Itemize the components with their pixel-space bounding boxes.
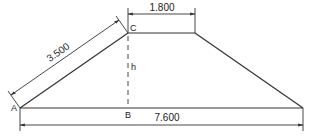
right-slant-line (195, 33, 303, 108)
point-label-c: C (130, 23, 137, 33)
slant-dimension-line (11, 20, 119, 95)
left-slant-line (20, 33, 128, 108)
top-dimension-label: 1.800 (149, 2, 174, 13)
slant-dimension (8, 16, 128, 108)
slant-extension-top (116, 16, 128, 33)
point-label-a: A (11, 103, 17, 113)
slant-dimension-label: 3.500 (45, 40, 72, 64)
point-label-b: B (125, 110, 131, 120)
trapezoid-diagram: 1.800 7.600 3.500 A B C h (0, 0, 310, 139)
height-label: h (131, 62, 136, 72)
base-dimension-label: 7.600 (154, 112, 179, 123)
